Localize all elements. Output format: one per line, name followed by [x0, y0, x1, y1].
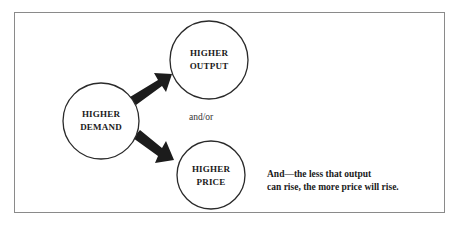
- node-output-label: HIGHER OUTPUT: [170, 47, 248, 73]
- note-line2: can rise, the more price will rise.: [267, 181, 399, 194]
- node-price-line1: HIGHER: [175, 163, 247, 176]
- node-price-label: HIGHER PRICE: [175, 163, 247, 189]
- arrow-demand-to-price-icon: [133, 130, 174, 163]
- node-output-line1: HIGHER: [170, 47, 248, 60]
- note-line1: And—the less that output: [267, 168, 399, 181]
- node-price-line2: PRICE: [175, 176, 247, 189]
- connector-label: and/or: [189, 112, 213, 122]
- node-demand-line2: DEMAND: [63, 121, 139, 134]
- node-demand-line1: HIGHER: [63, 108, 139, 121]
- arrow-demand-to-output-icon: [130, 73, 172, 105]
- note-text: And—the less that output can rise, the m…: [267, 168, 399, 194]
- node-demand-label: HIGHER DEMAND: [63, 108, 139, 134]
- node-output-line2: OUTPUT: [170, 60, 248, 73]
